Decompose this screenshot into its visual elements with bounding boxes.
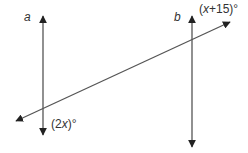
line-a-label: a <box>24 11 31 23</box>
angle-label-b: (x+15)° <box>199 3 238 15</box>
transversal-line <box>16 22 230 121</box>
angle-label-a-open: (2 <box>51 117 62 131</box>
diagram-canvas <box>0 0 248 153</box>
angle-label-a-rest: )° <box>68 117 77 131</box>
angle-label-b-rest: +15)° <box>209 2 238 16</box>
angle-label-a: (2x)° <box>51 118 76 130</box>
line-b-label: b <box>174 11 181 23</box>
